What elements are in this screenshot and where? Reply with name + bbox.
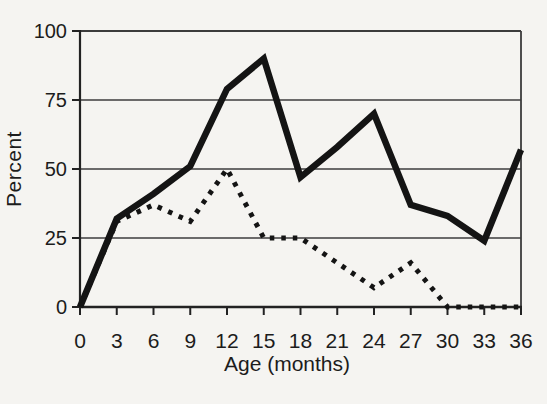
x-axis-label: Age (months): [224, 352, 350, 376]
x-tick-label: 9: [184, 329, 196, 352]
x-tick-label: 21: [326, 329, 349, 352]
x-tick-label: 30: [436, 329, 459, 352]
y-tick-label: 75: [45, 89, 67, 111]
y-tick-label: 0: [56, 296, 67, 318]
x-tick-label: 0: [74, 329, 86, 352]
x-tick-label: 24: [362, 329, 386, 352]
x-tick-label: 27: [399, 329, 422, 352]
solid-line: [80, 59, 521, 307]
y-tick-label: 50: [45, 158, 67, 180]
x-tick-label: 12: [215, 329, 238, 352]
x-tick-label: 36: [509, 329, 532, 352]
y-tick-label: 25: [45, 227, 67, 249]
line-chart-canvas: 02550751000369121518212427303336: [0, 0, 547, 404]
x-tick-label: 6: [148, 329, 160, 352]
x-tick-label: 3: [111, 329, 123, 352]
x-tick-label: 18: [289, 329, 312, 352]
chart-figure: 02550751000369121518212427303336 Percent…: [0, 0, 547, 404]
x-tick-label: 15: [252, 329, 275, 352]
y-tick-label: 100: [34, 20, 67, 42]
y-axis-label: Percent: [2, 131, 26, 207]
x-tick-label: 33: [473, 329, 496, 352]
